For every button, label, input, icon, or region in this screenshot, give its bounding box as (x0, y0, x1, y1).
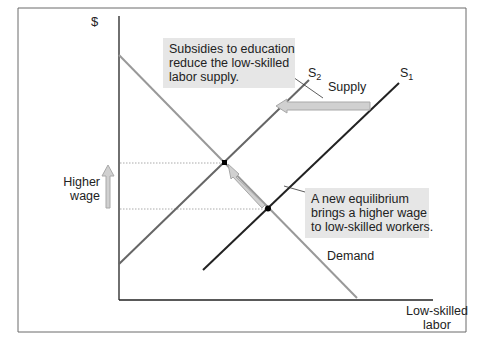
equilibrium-callout-line3: to low-skilled workers. (311, 220, 423, 234)
s1-label: S1 (400, 66, 413, 84)
supply-shift-arrow (276, 99, 370, 113)
supply-label: Supply (328, 80, 366, 94)
new-equilibrium-point (222, 160, 227, 165)
higher-wage-label: Higher wage (62, 175, 100, 203)
subsidies-callout-line1: Subsidies to education (169, 42, 289, 56)
s2-label: S2 (308, 66, 321, 84)
equilibrium-callout-line2: brings a higher wage (311, 206, 423, 220)
higher-wage-line2: wage (62, 189, 100, 203)
s1-subscript: 1 (408, 72, 413, 82)
x-axis-label-line2: labor (402, 318, 472, 332)
higher-wage-arrow (102, 165, 114, 208)
s2-subscript: 2 (316, 72, 321, 82)
x-axis-label-line1: Low-skilled (402, 304, 472, 318)
equilibrium-callout: A new equilibrium brings a higher wage t… (305, 188, 429, 238)
equilibrium-callout-line1: A new equilibrium (311, 192, 423, 206)
y-axis-label: $ (91, 15, 98, 29)
demand-curve (119, 55, 357, 298)
higher-wage-line1: Higher (62, 175, 100, 189)
subsidies-callout-line3: labor supply. (169, 70, 289, 84)
subsidies-callout-line2: reduce the low-skilled (169, 56, 289, 70)
x-axis-label: Low-skilled labor (402, 304, 472, 332)
subsidies-callout: Subsidies to education reduce the low-sk… (163, 38, 295, 88)
demand-label: Demand (327, 249, 374, 263)
original-equilibrium-point (265, 206, 271, 212)
